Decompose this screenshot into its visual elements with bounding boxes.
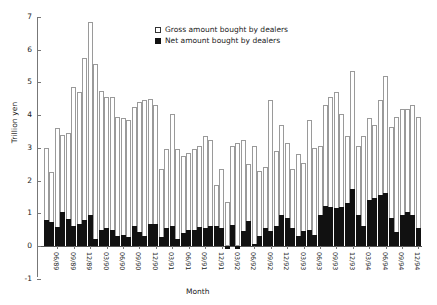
y-tick-label: 7	[8, 12, 32, 21]
legend-label-net: Net amount bought by dealers	[165, 36, 280, 45]
legend: Gross amount bought by dealers Net amoun…	[155, 24, 288, 46]
bar-gross	[93, 64, 98, 246]
bar-net	[235, 246, 240, 249]
bar-gross	[312, 148, 317, 246]
y-tick	[37, 181, 41, 182]
bar-net	[257, 236, 262, 246]
bar-gross	[104, 97, 109, 246]
y-tick-label: -1	[8, 274, 32, 283]
bar-net	[285, 218, 290, 246]
bar-net	[389, 218, 394, 246]
bar-chart: Trillion yen Month -101234567 06/8909/89…	[0, 0, 437, 305]
bar-net	[301, 231, 306, 246]
bar-net	[82, 220, 87, 246]
bar-net	[230, 225, 235, 246]
y-tick-label: 5	[8, 77, 32, 86]
bar-net	[361, 226, 366, 246]
bar-gross	[307, 120, 312, 246]
bar-net	[60, 212, 65, 246]
y-tick	[37, 246, 41, 247]
bar-net	[378, 195, 383, 246]
bar-gross	[296, 154, 301, 246]
bar-net	[181, 233, 186, 246]
bar-net	[410, 215, 415, 246]
bar-net	[142, 236, 147, 246]
bar-net	[323, 206, 328, 246]
bar-gross	[88, 22, 93, 246]
bar-net	[99, 230, 104, 246]
bar-net	[192, 230, 197, 246]
bar-net	[356, 215, 361, 246]
bar-net	[71, 226, 76, 246]
bar-gross	[241, 140, 246, 246]
legend-label-gross: Gross amount bought by dealers	[165, 25, 288, 34]
bar-net	[197, 227, 202, 246]
bar-net	[318, 215, 323, 246]
bar-net	[350, 189, 355, 246]
bar-net	[268, 231, 273, 246]
y-tick	[37, 115, 41, 116]
bar-net	[372, 198, 377, 246]
bar-net	[241, 231, 246, 246]
bar-net	[132, 226, 137, 246]
bar-net	[252, 244, 257, 246]
y-tick	[37, 279, 41, 280]
bar-net	[225, 246, 230, 249]
y-tick-label: 6	[8, 45, 32, 54]
bar-net	[263, 228, 268, 246]
bar-gross	[268, 100, 273, 246]
bar-net	[77, 224, 82, 246]
bar-gross	[394, 117, 399, 246]
legend-swatch-gross-icon	[155, 27, 161, 33]
y-tick-label: 0	[8, 241, 32, 250]
bar-net	[66, 219, 71, 246]
bar-gross	[235, 143, 240, 246]
bar-net	[88, 215, 93, 246]
bar-net	[405, 212, 410, 246]
y-tick-label: 2	[8, 176, 32, 185]
bar-net	[153, 224, 158, 246]
bar-net	[49, 222, 54, 246]
bar-gross	[71, 87, 76, 246]
bar-net	[104, 228, 109, 246]
y-tick	[37, 17, 41, 18]
y-tick	[37, 213, 41, 214]
bar-net	[312, 235, 317, 246]
bar-net	[416, 228, 421, 246]
bar-net	[394, 232, 399, 246]
bar-net	[334, 208, 339, 246]
bar-net	[159, 237, 164, 246]
plot-area	[42, 17, 422, 277]
bar-gross	[142, 100, 147, 246]
bar-net	[214, 226, 219, 246]
bar-net	[290, 228, 295, 246]
bar-net	[203, 228, 208, 246]
bar-net	[55, 227, 60, 246]
bar-net	[246, 221, 251, 246]
legend-item-gross: Gross amount bought by dealers	[155, 24, 288, 35]
bar-net	[339, 207, 344, 246]
bar-gross	[252, 146, 257, 246]
y-tick-label: 4	[8, 110, 32, 119]
bar-gross	[416, 117, 421, 246]
y-tick-label: 3	[8, 143, 32, 152]
y-tick-label: 1	[8, 208, 32, 217]
y-tick	[37, 50, 41, 51]
y-tick	[37, 82, 41, 83]
bar-net	[110, 230, 115, 246]
y-tick	[37, 148, 41, 149]
legend-swatch-net-icon	[155, 38, 161, 44]
bar-net	[208, 226, 213, 246]
bar-gross	[175, 149, 180, 246]
bar-net	[148, 224, 153, 246]
bar-net	[164, 228, 169, 246]
bar-net	[170, 226, 175, 246]
bar-net	[175, 239, 180, 246]
bar-net	[328, 207, 333, 246]
bar-net	[307, 230, 312, 246]
bar-gross	[99, 91, 104, 246]
bar-net	[126, 237, 131, 246]
bar-gross	[225, 202, 230, 246]
bar-gross	[126, 120, 131, 246]
bar-gross	[115, 117, 120, 246]
